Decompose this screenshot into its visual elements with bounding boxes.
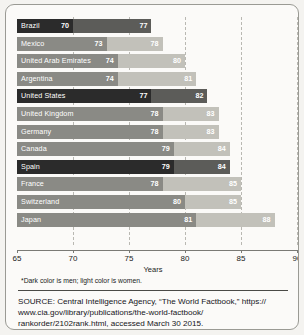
source-line-2: www.cia.gov/library/publications/the-wor… (18, 307, 290, 318)
bar-value-men: 73 (88, 38, 103, 50)
source-citation: SOURCE: Central Intelligence Agency, “Th… (18, 296, 290, 330)
bar-segment-men (17, 160, 174, 174)
x-axis-tick-label-65: 65 (13, 254, 22, 264)
bar-value-men: 78 (144, 108, 159, 120)
bar-country-label: Spain (21, 161, 40, 173)
gridline-85 (241, 17, 242, 245)
bar-value-women: 80 (166, 55, 181, 67)
x-axis-tick-label-80: 80 (181, 254, 190, 264)
bar-value-women: 85 (222, 196, 237, 208)
bar-country-label: Canada (21, 143, 47, 155)
bar-value-men: 70 (54, 20, 69, 32)
bar-value-men: 79 (155, 143, 170, 155)
bar-value-men: 79 (155, 161, 170, 173)
bar: United States7782 (17, 89, 207, 103)
bar-country-label: Germany (21, 126, 51, 138)
x-axis-tick-70 (73, 250, 74, 253)
x-axis-tick-75 (129, 250, 130, 253)
gridline-90 (297, 17, 298, 245)
bar-country-label: United States (21, 90, 65, 102)
bar-value-women: 77 (132, 20, 147, 32)
bar: Argentina7481 (17, 72, 196, 86)
bar: France7885 (17, 177, 241, 191)
bar-value-men: 78 (144, 178, 159, 190)
bar-value-women: 84 (211, 161, 226, 173)
figure-page: Brazil7077Mexico7378United Arab Emirates… (0, 0, 304, 335)
bar-country-label: Japan (21, 214, 41, 226)
bar-value-men: 80 (166, 196, 181, 208)
bar-value-women: 83 (200, 126, 215, 138)
chart-footnote: *Dark color is men; light color is women… (21, 276, 142, 285)
bar-country-label: Argentina (21, 73, 53, 85)
x-axis-tick-label-90: 90 (293, 254, 299, 264)
bar-value-women: 81 (177, 73, 192, 85)
x-axis-tick-label-85: 85 (237, 254, 246, 264)
bar-country-label: United Arab Emirates (21, 55, 91, 67)
x-axis-tick-80 (185, 250, 186, 253)
bar: United Arab Emirates7480 (17, 54, 185, 68)
source-line-1: SOURCE: Central Intelligence Agency, “Th… (18, 296, 290, 307)
x-axis: 657075808590 Years (6, 250, 299, 276)
source-line-3: rankorder/2102rank.html, accessed March … (18, 318, 290, 329)
bar: Germany7883 (17, 125, 219, 139)
bar-value-men: 77 (132, 90, 147, 102)
bar-country-label: France (21, 178, 44, 190)
bar: United Kingdom7883 (17, 107, 219, 121)
bar-value-women: 88 (256, 214, 271, 226)
bar: Mexico7378 (17, 37, 163, 51)
bar-value-women: 82 (188, 90, 203, 102)
bar-value-men: 74 (99, 73, 114, 85)
bar: Canada7984 (17, 142, 230, 156)
bar: Brazil7077 (17, 19, 151, 33)
bar-value-men: 81 (177, 214, 192, 226)
x-axis-title: Years (6, 265, 299, 275)
bar-segment-men (17, 213, 196, 227)
bar: Spain7984 (17, 160, 230, 174)
bar-country-label: Mexico (21, 38, 44, 50)
bar: Japan8188 (17, 213, 275, 227)
x-axis-line (17, 250, 297, 251)
x-axis-tick-65 (17, 250, 18, 253)
x-axis-tick-85 (241, 250, 242, 253)
x-axis-tick-label-70: 70 (69, 254, 78, 264)
bar-value-women: 78 (144, 38, 159, 50)
x-axis-tick-90 (297, 250, 298, 253)
bar-value-women: 83 (200, 108, 215, 120)
figure-card: Brazil7077Mexico7378United Arab Emirates… (5, 4, 299, 330)
bar-value-women: 85 (222, 178, 237, 190)
bar-country-label: Brazil (21, 20, 40, 32)
bar-value-women: 84 (211, 143, 226, 155)
bar-value-men: 74 (99, 55, 114, 67)
chart-plot-area: Brazil7077Mexico7378United Arab Emirates… (6, 13, 299, 249)
bar-country-label: United Kingdom (21, 108, 74, 120)
bar: Switzerland8085 (17, 195, 241, 209)
bar-value-men: 78 (144, 126, 159, 138)
source-divider (18, 290, 288, 291)
x-axis-tick-label-75: 75 (125, 254, 134, 264)
bar-country-label: Switzerland (21, 196, 59, 208)
